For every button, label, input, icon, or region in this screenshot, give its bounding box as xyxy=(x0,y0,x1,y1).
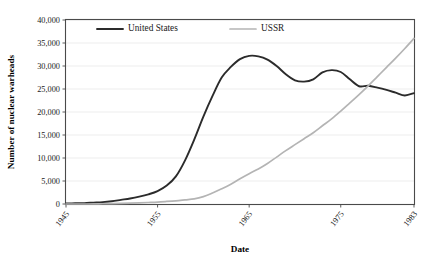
chart-canvas: 05,00010,00015,00020,00025,00030,00035,0… xyxy=(0,0,434,262)
y-tick-label: 35,000 xyxy=(37,39,60,48)
y-tick-label: 20,000 xyxy=(37,108,60,117)
x-axis-title: Date xyxy=(231,244,249,254)
chart-legend: United StatesUSSR xyxy=(97,23,285,33)
y-tick-label: 0 xyxy=(56,200,60,209)
nuclear-warheads-chart: 05,00010,00015,00020,00025,00030,00035,0… xyxy=(0,0,434,262)
y-tick-label: 40,000 xyxy=(37,16,60,25)
legend-label-united-states: United States xyxy=(128,23,178,33)
x-tick-label: 1955 xyxy=(145,210,162,229)
y-tick-labels-group: 05,00010,00015,00020,00025,00030,00035,0… xyxy=(37,16,60,209)
y-tick-label: 5,000 xyxy=(41,177,60,186)
y-tick-label: 30,000 xyxy=(37,62,60,71)
x-tick-label: 1983 xyxy=(402,210,419,229)
gridlines-group xyxy=(66,20,414,181)
series-line-ussr xyxy=(66,38,414,204)
y-axis-title: Number of nuclear warheads xyxy=(6,54,16,169)
x-tick-labels-group: 19451955196519751983 xyxy=(54,210,419,229)
x-tick-label: 1945 xyxy=(54,210,71,229)
x-tick-label: 1975 xyxy=(329,210,346,229)
x-tick-label: 1965 xyxy=(237,210,254,229)
y-tick-label: 15,000 xyxy=(37,131,60,140)
y-tick-label: 10,000 xyxy=(37,154,60,163)
series-group xyxy=(66,38,414,204)
y-tick-label: 25,000 xyxy=(37,85,60,94)
legend-label-ussr: USSR xyxy=(261,23,285,33)
